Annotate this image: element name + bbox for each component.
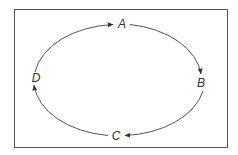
edge-c-to-d <box>34 85 108 136</box>
edge-d-to-a <box>35 25 113 73</box>
edge-a-to-b <box>130 25 201 75</box>
node-label-c: C <box>112 130 121 142</box>
node-label-a: A <box>118 18 126 30</box>
node-label-d: D <box>32 72 41 84</box>
edge-b-to-c <box>125 91 203 136</box>
node-label-b: B <box>197 77 205 89</box>
